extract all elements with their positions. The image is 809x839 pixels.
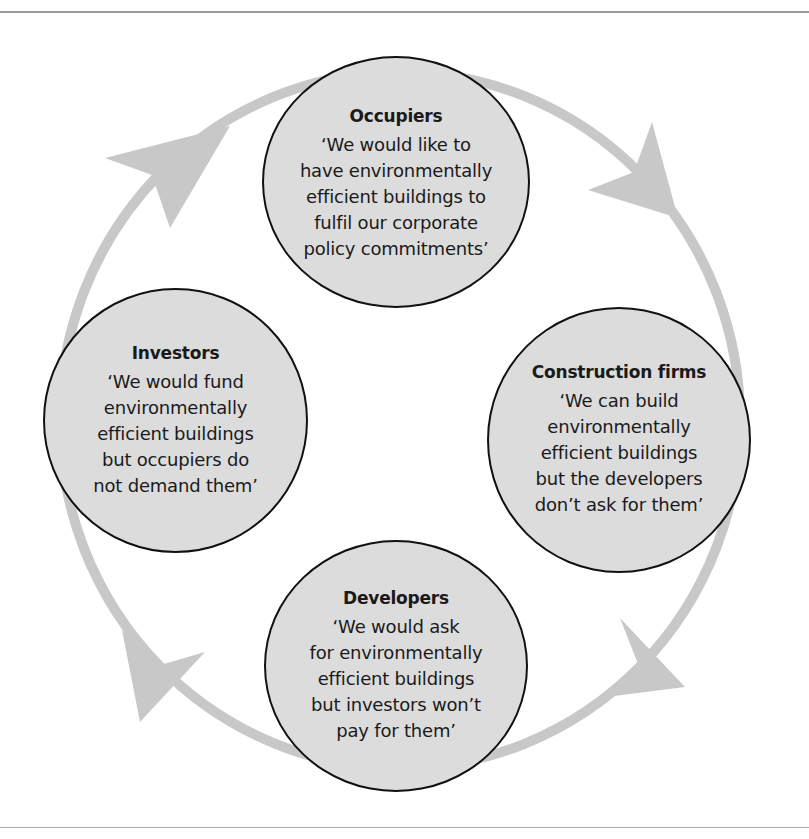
node-developers: Developers ‘We would ask for environment… bbox=[264, 540, 528, 792]
node-occupiers: Occupiers ‘We would like to have environ… bbox=[262, 56, 530, 308]
node-construction-firms: Construction firms ‘We can build environ… bbox=[487, 307, 751, 573]
node-quote: ‘We can build environmentally efficient … bbox=[535, 388, 703, 518]
node-title: Occupiers bbox=[350, 106, 443, 126]
node-quote: ‘We would like to have environmentally e… bbox=[300, 132, 492, 262]
node-title: Developers bbox=[343, 588, 449, 608]
node-quote: ‘We would fund environmentally efficient… bbox=[93, 369, 257, 499]
node-quote: ‘We would ask for environmentally effici… bbox=[310, 614, 483, 744]
arrowhead-icon bbox=[122, 630, 205, 722]
node-investors: Investors ‘We would fund environmentally… bbox=[43, 288, 308, 553]
node-title: Construction firms bbox=[532, 362, 707, 382]
node-title: Investors bbox=[132, 343, 220, 363]
